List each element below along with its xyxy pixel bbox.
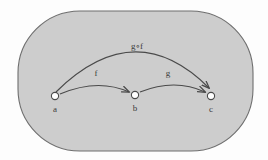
arrow-label-f: f bbox=[95, 68, 98, 78]
node-label-b: b bbox=[133, 103, 138, 113]
diagram-canvas: g∘f f g a b c bbox=[0, 0, 268, 160]
enclosing-region bbox=[18, 11, 253, 151]
arrow-label-gof: g∘f bbox=[131, 41, 143, 51]
arrow-label-g: g bbox=[166, 68, 171, 78]
composition-diagram-svg: g∘f f g a b c bbox=[0, 0, 268, 160]
node-label-c: c bbox=[209, 104, 213, 114]
node-label-a: a bbox=[53, 104, 57, 114]
node-a bbox=[51, 92, 58, 99]
node-c bbox=[207, 92, 214, 99]
node-b bbox=[131, 91, 138, 98]
